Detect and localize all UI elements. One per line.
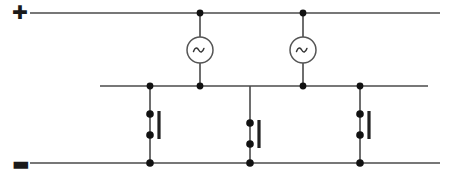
junction-nodes bbox=[146, 10, 364, 167]
circuit-diagram: ✚ ▬ bbox=[0, 0, 460, 180]
ac-source-1-body[interactable] bbox=[187, 37, 213, 63]
node-mid-bus-source2 bbox=[300, 83, 307, 90]
switch-branch-1[interactable] bbox=[146, 86, 159, 163]
switch-3-contact-bottom-dot bbox=[356, 131, 364, 139]
minus-sign-icon: ▬ bbox=[12, 154, 30, 173]
ac-source-branch-2[interactable] bbox=[290, 13, 316, 86]
switch-3-contact-top-dot bbox=[356, 110, 364, 118]
node-mid-bus-source1 bbox=[197, 83, 204, 90]
switch-2-contact-bottom-dot bbox=[246, 140, 254, 148]
node-mid-bus-switch3 bbox=[357, 83, 364, 90]
switch-2-contact-top-dot bbox=[246, 119, 254, 127]
circuit-schematic-svg bbox=[0, 0, 460, 180]
ac-source-branch-1[interactable] bbox=[187, 13, 213, 86]
switch-branch-2[interactable] bbox=[246, 86, 259, 163]
switch-1-contact-bottom-dot bbox=[146, 131, 154, 139]
switch-branch-3[interactable] bbox=[356, 86, 369, 163]
node-mid-bus-switch1 bbox=[147, 83, 154, 90]
node-top-bus-source1 bbox=[197, 10, 204, 17]
node-bottom-bus-switch3 bbox=[356, 159, 364, 167]
node-bottom-bus-switch1 bbox=[146, 159, 154, 167]
bus-lines bbox=[30, 13, 440, 163]
ac-source-2-body[interactable] bbox=[290, 37, 316, 63]
switch-1-contact-top-dot bbox=[146, 110, 154, 118]
plus-sign-icon: ✚ bbox=[12, 3, 28, 22]
node-top-bus-source2 bbox=[300, 10, 307, 17]
node-bottom-bus-switch2 bbox=[246, 159, 254, 167]
